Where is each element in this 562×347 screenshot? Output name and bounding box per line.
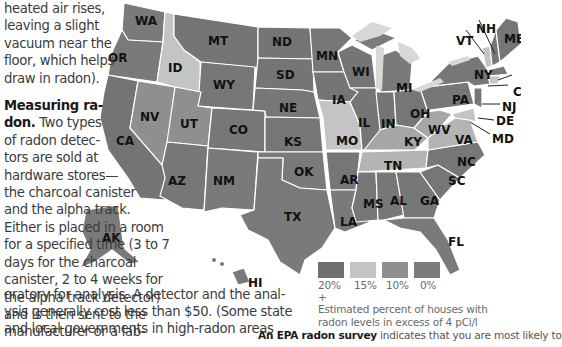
label-in: IN [381,117,396,131]
label-ny: NY [474,68,493,82]
label-ok: OK [294,165,314,179]
label-ks: KS [284,135,302,149]
label-mo: MO [336,134,358,148]
label-sc: SC [448,174,466,188]
legend-label: 10% [384,279,416,303]
label-ar: AR [340,173,359,187]
label-mn: MN [316,49,338,63]
text-line: vacuum near the [4,35,179,52]
label-tx: TX [284,210,302,224]
text-line: floor, which helps [4,52,179,69]
label-ia: IA [332,93,346,107]
text-line: of radon detec- [4,132,179,149]
label-nj: NJ [502,100,517,114]
label-oh: OH [410,107,430,121]
legend-caption-line: Estimated percent of houses with [318,303,518,316]
survey-text: An EPA radon survey indicates that you a… [258,329,562,341]
legend-label: 0% [416,279,450,303]
label-ga: GA [420,194,440,208]
label-ut: UT [180,117,199,131]
text-line: don. Two types [4,114,179,131]
label-wi: WI [352,65,370,79]
label-mt: MT [208,34,229,48]
text-line: days for the charcoal [4,254,179,271]
map-legend: 20% + 15% 10% 0% Estimated percent of ho… [318,262,518,329]
label-nm: NM [213,174,235,188]
text-line: oratory for analysis. A detector and the… [4,286,285,303]
label-md: MD [492,132,514,146]
text-line: and local governments in high-radon area… [4,320,274,337]
label-pa: PA [452,93,470,107]
label-co: CO [229,123,248,137]
label-nc: NC [457,155,476,169]
text-line: ysis generally cost less than $50. (Some… [4,303,292,320]
label-wy: WY [213,78,235,92]
text-line: tors are sold at [4,149,179,166]
text-line: leaving a slight [4,17,179,34]
legend-swatch-10 [382,262,408,278]
label-al: AL [390,194,407,208]
text-line: Either is placed in a room [4,219,179,236]
section-heading-cont: don. [4,115,36,130]
label-vt: VT [456,34,474,48]
legend-swatch-0 [414,262,440,278]
legend-label: 20% + [318,279,352,303]
survey-body: indicates that you are most likely to [377,329,562,341]
text-line: for a specified time (3 to 7 [4,236,179,253]
text-line: draw in radon). [4,70,179,87]
label-me: ME [504,32,521,46]
label-ms: MS [363,197,384,211]
legend-caption-line: radon levels in excess of 4 pCi/l [318,316,518,329]
state-nj [474,88,482,108]
section-heading-line: Measuring ra- [4,97,179,114]
label-la: LA [340,215,358,229]
label-ne: NE [279,101,297,115]
label-tn: TN [384,159,402,173]
label-nh: NH [476,22,496,36]
text-line: and the alpha track. [4,201,179,218]
label-de: DE [496,114,514,128]
section-heading: Measuring ra- [4,98,103,113]
label-mi: MI [396,81,412,95]
text-line: heated air rises, [4,0,179,17]
label-wv: WV [428,123,451,137]
survey-heading: An EPA radon survey [258,329,377,341]
label-fl: FL [448,235,464,249]
label-nd: ND [272,35,292,49]
label-il: IL [358,116,370,130]
label-ky: KY [404,135,422,149]
text-line: the charcoal canister [4,184,179,201]
legend-swatch-20-plus [318,262,344,278]
text-line: hardware stores— [4,167,179,184]
label-ct: C [513,85,521,99]
label-va: VA [455,133,473,147]
legend-label: 15% [352,279,384,303]
label-sd: SD [276,68,295,82]
legend-swatch-15 [350,262,376,278]
